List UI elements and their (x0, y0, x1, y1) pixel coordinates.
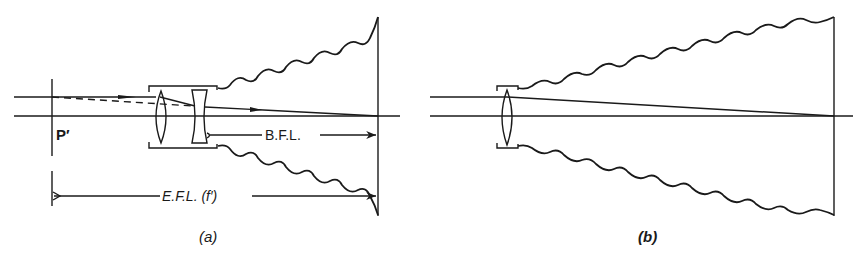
optical-diagram: P′ B.F.L. E.F.L. (f′) (a) (b) (0, 0, 861, 257)
caption-b: (b) (638, 228, 657, 245)
efl-label: E.F.L. (f′) (162, 188, 217, 204)
bellows-top-b (518, 17, 834, 89)
panel-a (14, 17, 400, 216)
bellows-bottom (218, 145, 378, 215)
positive-lens-b (502, 90, 512, 145)
bellows-top (218, 17, 378, 89)
refracted-ray-b (507, 97, 834, 116)
bfl-label: B.F.L. (265, 127, 301, 143)
panel-b (430, 17, 853, 216)
bellows-bottom-b (518, 145, 834, 215)
refracted-ray-2 (205, 107, 378, 116)
caption-a: (a) (199, 228, 217, 245)
principal-plane-label: P′ (56, 126, 70, 143)
